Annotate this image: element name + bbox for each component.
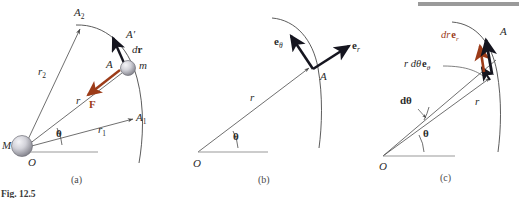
label-r-c: r — [475, 96, 479, 107]
dr-vector-arrow — [113, 38, 124, 63]
label-r-dtheta-e-theta: r dθ eθ — [404, 59, 430, 72]
radius-r-line-b — [198, 68, 309, 152]
dr-resultant-vector-arrow — [486, 40, 492, 74]
radius-r-line-c — [383, 78, 490, 156]
label-r1: r1 — [98, 124, 106, 138]
mass-m-sphere — [121, 61, 136, 76]
label-origin-O-a: O — [28, 157, 36, 168]
label-e-theta: eθ — [274, 36, 283, 50]
orbit-path-c — [452, 22, 501, 152]
mass-M-sphere — [12, 136, 33, 157]
label-A-point-c: A — [500, 26, 507, 37]
label-dr-e-r: dr er — [441, 30, 459, 43]
label-theta-b: θ — [233, 131, 239, 142]
label-force-F: F — [89, 99, 96, 110]
radius-r-plus-dr-line — [383, 60, 496, 156]
label-r-b: r — [250, 92, 254, 103]
e-r-vector-arrow — [313, 46, 349, 69]
figure-12-5: A2 A′ dr A m F r2 r r1 A1 θ M O eθ er A … — [0, 0, 519, 198]
label-A2: A2 — [74, 7, 84, 21]
panel-caption-a: (a) — [71, 174, 82, 185]
figure-caption: Fig. 12.5 — [1, 189, 36, 198]
label-A1: A1 — [136, 112, 146, 126]
rdtheta-leader-line — [443, 66, 486, 78]
label-r-a: r — [76, 95, 80, 106]
label-origin-O-c: O — [379, 161, 387, 172]
label-r2: r2 — [38, 66, 46, 80]
label-A-point-b: A — [320, 71, 327, 82]
force-vector-arrow — [88, 70, 120, 95]
e-theta-vector-arrow — [291, 36, 313, 69]
dtheta-leader-line — [418, 109, 426, 118]
label-A-point-a: A — [106, 59, 113, 70]
label-mass-m: m — [139, 60, 147, 71]
label-dr-vector: dr — [132, 44, 142, 55]
label-e-r: er — [352, 40, 360, 54]
label-A-prime: A′ — [126, 29, 135, 40]
panel-caption-b: (b) — [258, 174, 270, 185]
label-theta-c: θ — [423, 128, 429, 139]
label-dtheta-c: dθ — [400, 95, 412, 106]
label-origin-O-b: O — [193, 158, 201, 169]
panel-caption-c: (c) — [440, 172, 451, 183]
label-mass-M: M — [2, 140, 11, 151]
radius-r-line-a — [24, 73, 122, 148]
radius-r1-line — [24, 119, 133, 148]
label-theta-a: θ — [56, 128, 62, 139]
radius-r2-line — [24, 29, 80, 148]
